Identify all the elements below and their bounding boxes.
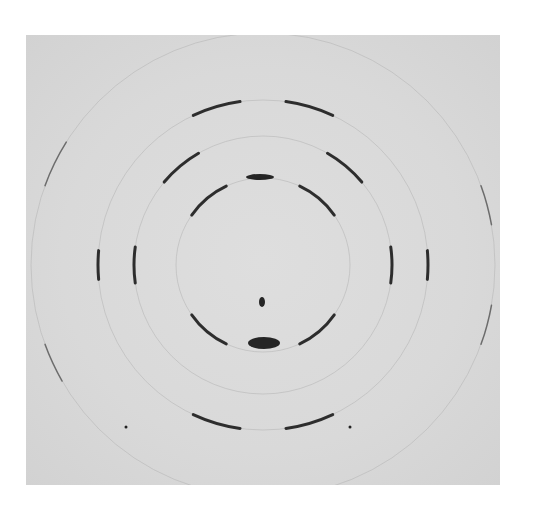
reflection-arc xyxy=(481,186,491,225)
reflection-arc xyxy=(391,247,392,283)
diffraction-pattern xyxy=(26,35,500,485)
reflection-arc xyxy=(192,315,226,344)
reflection-arc xyxy=(45,344,62,381)
reflection-arc xyxy=(286,415,333,429)
reflection-arc xyxy=(45,142,66,186)
meridional-spot xyxy=(248,337,280,349)
dust-speck xyxy=(349,426,352,429)
reflection-arc xyxy=(164,153,198,182)
meridional-spot xyxy=(259,297,265,307)
reflection-arc xyxy=(481,305,491,344)
dust-speck xyxy=(125,426,128,429)
ring-large xyxy=(98,100,428,430)
reflection-arc xyxy=(193,415,240,429)
reflection-arc xyxy=(98,251,99,280)
meridional-spot xyxy=(246,174,274,180)
diffraction-photo xyxy=(26,35,500,485)
reflection-arc xyxy=(427,251,428,280)
reflection-arc xyxy=(193,102,240,116)
reflection-arc xyxy=(134,247,135,283)
reflection-arc xyxy=(328,153,362,182)
reflection-arc xyxy=(286,102,333,116)
ring-outer xyxy=(31,35,495,485)
reflection-arc xyxy=(300,315,334,344)
reflection-arc xyxy=(300,186,334,215)
reflection-arc xyxy=(192,186,226,215)
